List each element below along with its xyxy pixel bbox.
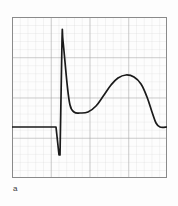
panel-label: a	[13, 184, 17, 194]
grid-major	[12, 17, 167, 178]
waveform-chart	[12, 17, 167, 178]
figure-panel: a	[0, 0, 178, 206]
plot-area	[12, 17, 167, 178]
